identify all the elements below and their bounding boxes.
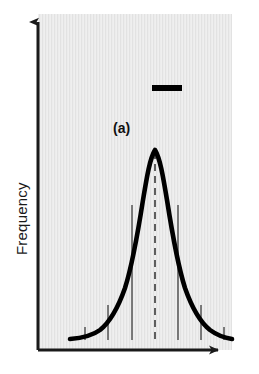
- legend-bar-icon: [152, 85, 182, 91]
- y-axis-label: Frequency: [13, 182, 30, 255]
- distribution-chart-svg: Frequency (a): [0, 0, 259, 374]
- figure-container: Frequency (a): [0, 0, 259, 374]
- plot-area-background: [38, 14, 232, 350]
- panel-label: (a): [113, 120, 130, 136]
